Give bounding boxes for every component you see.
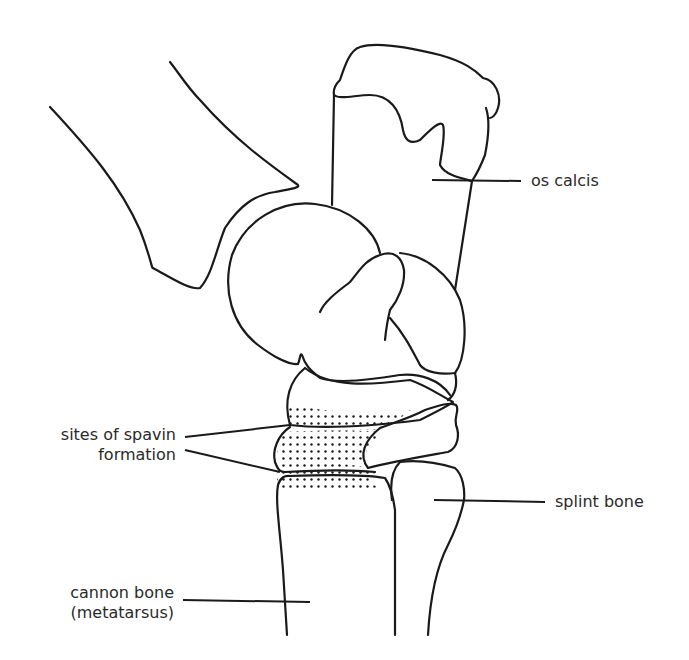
leader-cannon-bone [183,600,310,602]
spavin-stipple-middle [278,431,382,466]
label-cannon-line1: cannon bone [40,583,174,603]
bone-drawing [0,0,689,660]
hock-anatomy-diagram: os calcis sites of spavin formation spli… [0,0,689,660]
leader-spavin-lower [185,450,280,472]
talus-inner-curl [320,253,404,340]
label-splint-bone: splint bone [555,492,644,512]
label-cannon-bone: cannon bone (metatarsus) [40,583,174,623]
cannon-bone-outline [277,475,395,635]
spavin-stipple-upper [285,405,415,430]
tibia-outline [50,62,298,288]
leader-splint-bone [434,500,545,502]
os-calcis-outline [332,45,499,290]
label-spavin-line2: formation [38,445,176,465]
talus-outline [228,203,450,395]
splint-bone-outline [391,461,464,635]
label-spavin-sites: sites of spavin formation [38,425,176,465]
spavin-stipple-lower [277,463,380,489]
label-os-calcis: os calcis [531,171,599,191]
label-spavin-line1: sites of spavin [38,425,176,445]
os-calcis-notch [334,95,472,181]
talus-right-lobe [390,253,465,374]
leader-os-calcis [432,180,521,181]
leader-spavin-upper [185,425,290,437]
talus-right-edge [448,373,456,400]
label-cannon-line2: (metatarsus) [40,603,174,623]
